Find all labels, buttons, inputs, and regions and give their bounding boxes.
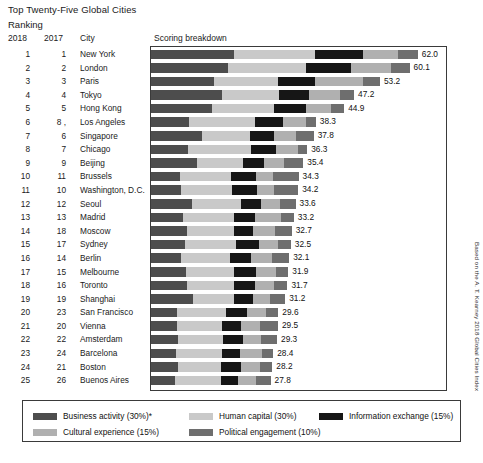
city-name: Shanghai [80,294,115,304]
rank-2018: 13 [8,212,30,222]
city-name: Chicago [80,144,110,154]
bar-value-label: 37.8 [318,130,334,140]
bar-segment-business-activity [151,50,234,60]
bar-segment-human-capital [178,362,221,372]
bar-value-label: 29.5 [282,320,298,330]
rank-2017: 6 [44,131,66,141]
rank-2018: 11 [8,185,30,195]
bar-segment-human-capital [185,240,236,250]
stacked-bar [151,145,307,155]
bar-segment-business-activity [151,308,177,318]
bar-segment-political-engagement [296,131,314,141]
bar-value-label: 32.1 [293,252,309,262]
bar-row: 35.4 [151,157,446,171]
bar-segment-human-capital [234,50,315,60]
bar-segment-information-exchange [234,281,255,291]
bar-value-label: 60.1 [414,62,430,72]
bar-segment-business-activity [151,90,222,100]
rank-2018: 18 [8,280,30,290]
legend-item-political-engagement: Political engagement (10%) [189,427,320,437]
bar-segment-information-exchange [234,267,256,277]
bar-segment-cultural-experience [351,63,391,73]
bar-segment-business-activity [151,77,214,87]
rank-2017: 4 [44,90,66,100]
bar-segment-cultural-experience [283,117,306,127]
bar-segment-human-capital [228,63,306,73]
bar-segment-cultural-experience [255,213,281,223]
bar-segment-human-capital [178,335,223,345]
stacked-bar [151,185,298,195]
city-name: Amsterdam [80,334,122,344]
rank-2017: 5 [44,103,66,113]
bar-segment-information-exchange [234,294,252,304]
bar-row: 44.9 [151,102,446,116]
rank-2017: 19 [44,294,66,304]
bar-segment-human-capital [183,213,234,223]
bar-segment-cultural-experience [315,77,363,87]
rank-2017: 13 [44,212,66,222]
bar-segment-cultural-experience [257,185,273,195]
legend-swatch-information-exchange [319,413,343,420]
stacked-bar [151,362,272,372]
bar-segment-human-capital [202,131,250,141]
bar-segment-business-activity [151,294,193,304]
bar-segment-political-engagement [306,117,316,127]
stacked-bar [151,281,287,291]
city-name: Moscow [80,226,110,236]
city-name: Madrid [80,212,105,222]
stacked-bar [151,63,410,73]
bar-segment-information-exchange [221,362,241,372]
rank-2017: 16 [44,280,66,290]
bar-value-label: 53.2 [384,76,400,86]
bar-row: 32.1 [151,252,446,266]
bar-segment-human-capital [222,90,280,100]
bar-segment-political-engagement [260,362,272,372]
city-name: Boston [80,362,106,372]
bar-segment-information-exchange [232,185,257,195]
rank-2017: 15 [44,267,66,277]
bar-segment-information-exchange [236,240,258,250]
page-subtitle: Ranking [8,19,43,30]
rank-2017: 14 [44,253,66,263]
bar-row: 62.0 [151,48,446,62]
bar-segment-human-capital [192,199,241,209]
column-header-2018: 2018 [8,33,27,43]
bar-segment-human-capital [187,281,234,291]
bar-segment-political-engagement [398,50,418,60]
bar-segment-business-activity [151,145,188,155]
bar-segment-political-engagement [278,240,290,250]
rank-2017: 18 [44,226,66,236]
rank-2017: 1 [44,49,66,59]
bar-row: 29.6 [151,306,446,320]
bar-segment-business-activity [151,213,183,223]
bar-segment-information-exchange [234,213,255,223]
city-name: Berlin [80,253,101,263]
bar-segment-political-engagement [256,376,270,386]
bar-segment-information-exchange [251,145,276,155]
bar-segment-business-activity [151,321,177,331]
city-name: Washington, D.C. [80,185,145,195]
bar-segment-business-activity [151,335,178,345]
bar-segment-human-capital [212,104,275,114]
bar-segment-cultural-experience [243,335,261,345]
legend-swatch-political-engagement [189,429,213,436]
bar-segment-information-exchange [306,63,351,73]
bar-row: 29.5 [151,320,446,334]
bar-row: 37.8 [151,130,446,144]
bar-segment-political-engagement [262,349,274,359]
bar-segment-human-capital [180,172,232,182]
rank-2018: 20 [8,307,30,317]
city-name: Melbourne [80,267,119,277]
bar-segment-cultural-experience [247,308,266,318]
bar-segment-cultural-experience [241,362,260,372]
city-name: San Francisco [80,307,133,317]
rank-2018: 3 [8,76,30,86]
legend-swatch-business-activity [33,413,57,420]
bar-row: 31.9 [151,266,446,280]
bar-value-label: 34.3 [303,171,319,181]
bar-value-label: 28.4 [277,348,293,358]
bar-segment-information-exchange [231,172,255,182]
stacked-bar [151,376,271,386]
bar-segment-information-exchange [241,199,261,209]
rank-2018: 1 [8,49,30,59]
